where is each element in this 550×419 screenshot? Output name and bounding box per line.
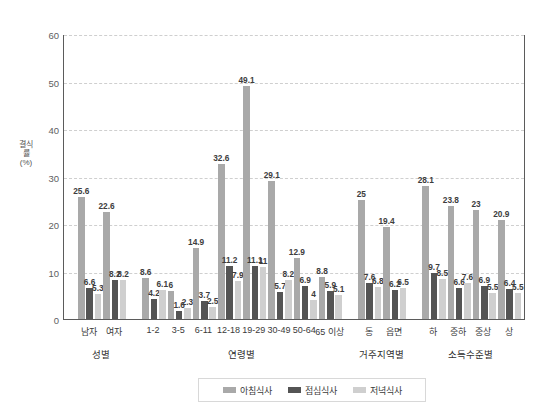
bar[interactable]: 6	[168, 34, 175, 319]
y-axis-tick-labels: 0102030405060	[34, 35, 59, 320]
bar[interactable]: 11.1	[252, 34, 259, 319]
y-tick-label: 20	[48, 220, 59, 231]
bar-fill	[439, 279, 446, 319]
x-tick-label: 하	[429, 325, 437, 338]
bar-group: 257.66.8	[357, 35, 382, 319]
bar-group: 25.66.65.3	[77, 35, 102, 319]
bar-fill	[151, 299, 158, 319]
bar-fill	[268, 181, 275, 319]
chart-legend: 아침식사점심식사저녁식사	[198, 378, 426, 402]
x-tick-label: 6-11	[195, 325, 212, 335]
bar[interactable]: 49.1	[243, 34, 250, 319]
bar-fill	[103, 212, 110, 319]
y-tick-label: 40	[48, 125, 59, 136]
bar-group: 22.68.28.2	[102, 35, 127, 319]
bar[interactable]: 6.8	[375, 34, 382, 319]
bar-value-label: 8.8	[316, 266, 328, 276]
bar[interactable]: 8.8	[319, 34, 326, 319]
bar-fill	[252, 266, 259, 319]
bar[interactable]: 2.3	[184, 34, 191, 319]
y-tick-label: 10	[48, 267, 59, 278]
legend-label: 점심식사	[305, 384, 337, 397]
x-group-label: 성별	[92, 347, 110, 361]
bar-fill	[456, 288, 463, 319]
bar-fill	[142, 278, 149, 319]
bar[interactable]: 6.9	[481, 34, 488, 319]
bar-fill	[400, 288, 407, 319]
bar-fill	[95, 294, 102, 319]
bar-fill	[392, 290, 399, 319]
x-tick-label: 30-49	[267, 325, 290, 335]
x-tick-label: 65 이상	[315, 325, 344, 338]
bar[interactable]: 6.6	[86, 34, 93, 319]
bar-group: 8.85.95.1	[318, 35, 343, 319]
bar[interactable]: 8.2	[285, 34, 292, 319]
bar-fill	[193, 248, 200, 319]
bar[interactable]: 6.1	[159, 34, 166, 319]
bars-layer: 25.66.65.322.68.28.28.64.26.161.62.314.9…	[64, 35, 524, 319]
bar-fill	[184, 308, 191, 319]
bar[interactable]: 5.3	[95, 34, 102, 319]
bar-fill	[515, 293, 522, 319]
bar-fill	[383, 227, 390, 319]
bar[interactable]: 7.6	[464, 34, 471, 319]
bar[interactable]: 5.1	[335, 34, 342, 319]
bar[interactable]: 8.6	[142, 34, 149, 319]
bar-fill	[498, 220, 505, 319]
legend-item[interactable]: 점심식사	[288, 384, 337, 397]
bar[interactable]: 8.2	[120, 34, 127, 319]
bar[interactable]: 4.2	[151, 34, 158, 319]
bar[interactable]: 6.5	[400, 34, 407, 319]
bar-fill	[243, 86, 250, 319]
bar-fill	[506, 289, 513, 319]
bar[interactable]: 1.6	[176, 34, 183, 319]
bar-group: 236.95.5	[472, 35, 497, 319]
bar[interactable]: 6.9	[302, 34, 309, 319]
bar-fill	[310, 300, 317, 319]
bar-fill	[375, 287, 382, 319]
bar[interactable]: 6.4	[506, 34, 513, 319]
bar-value-label: 4.2	[148, 288, 160, 298]
y-tick-label: 50	[48, 77, 59, 88]
bar-fill	[285, 280, 292, 319]
bar-fill	[294, 258, 301, 319]
legend-item[interactable]: 저녁식사	[353, 384, 402, 397]
bar-fill	[489, 293, 496, 319]
bar-fill	[260, 267, 267, 319]
x-tick-label: 19-29	[242, 325, 265, 335]
bar-value-label: 5.1	[333, 284, 345, 294]
bar[interactable]: 5.9	[327, 34, 334, 319]
x-group-label: 거주지역별	[359, 347, 404, 361]
bar[interactable]: 4	[310, 34, 317, 319]
bar[interactable]: 5.5	[489, 34, 496, 319]
x-axis-category-labels: 남자여자1-23-56-1112-1819-2930-4950-6465 이상동…	[0, 325, 550, 341]
bar[interactable]: 32.6	[218, 34, 225, 319]
x-tick-label: 여자	[106, 325, 122, 338]
bar[interactable]: 28.1	[422, 34, 429, 319]
x-tick-label: 중상	[475, 325, 491, 338]
legend-swatch	[288, 387, 301, 393]
bar-fill	[302, 286, 309, 319]
bar-value-label: 23	[471, 199, 480, 209]
bar-fill	[209, 307, 216, 319]
bar-group: 28.19.78.5	[421, 35, 446, 319]
bar[interactable]: 2.5	[209, 34, 216, 319]
bar-chart: 결식률(%) 0102030405060 25.66.65.322.68.28.…	[0, 0, 550, 419]
bar[interactable]: 19.4	[383, 34, 390, 319]
plot-area: 25.66.65.322.68.28.28.64.26.161.62.314.9…	[63, 35, 525, 320]
bar-fill	[277, 292, 284, 319]
legend-item[interactable]: 아침식사	[223, 384, 272, 397]
bar-fill	[218, 164, 225, 319]
x-tick-label: 12-18	[217, 325, 240, 335]
bar[interactable]: 8.5	[439, 34, 446, 319]
bar-fill	[422, 186, 429, 319]
bar[interactable]: 29.1	[268, 34, 275, 319]
bar-fill	[176, 311, 183, 319]
bar-fill	[112, 280, 119, 319]
bar-fill	[78, 197, 85, 319]
bar[interactable]: 5.5	[515, 34, 522, 319]
bar[interactable]: 20.9	[498, 34, 505, 319]
bar[interactable]: 14.9	[193, 34, 200, 319]
y-axis-title: 결식률(%)	[18, 140, 34, 167]
bar[interactable]: 3.7	[201, 34, 208, 319]
